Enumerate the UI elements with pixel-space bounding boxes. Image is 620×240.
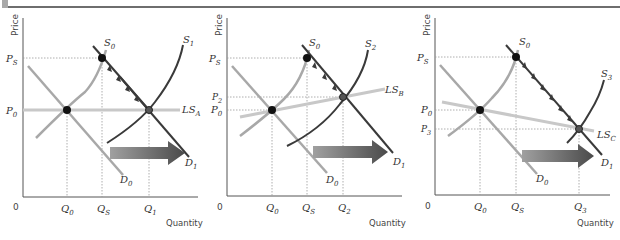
origin-label: 0 — [217, 202, 223, 212]
y-axis-label: Price — [214, 14, 224, 36]
supply-s0-curve — [240, 50, 309, 136]
point-long-run-equilibrium — [146, 107, 153, 114]
origin-label: 0 — [13, 202, 19, 212]
label-s2: S2 — [365, 38, 377, 52]
tick-p0: P0 — [5, 105, 18, 119]
tick-p0: P0 — [420, 104, 433, 118]
demand-d0-line — [232, 66, 327, 173]
tick-ps: PS — [208, 53, 221, 67]
demand-d0-line — [28, 66, 123, 175]
x-axis-label: Quantity — [577, 218, 614, 228]
point-initial-equilibrium — [476, 106, 484, 114]
label-ls-a: LSA — [181, 104, 201, 118]
x-axis-label: Quantity — [166, 218, 203, 228]
label-s0: S0 — [519, 36, 531, 50]
label-d1: D1 — [184, 157, 198, 171]
point-short-run-equilibrium — [303, 54, 311, 62]
supply-s0-curve — [448, 50, 518, 136]
label-s1: S1 — [183, 34, 194, 48]
demand-shift-arrow-icon — [110, 141, 185, 165]
tick-q0: Q0 — [474, 201, 487, 215]
point-initial-equilibrium — [63, 106, 71, 114]
label-d0: D0 — [325, 174, 339, 188]
label-ls-b: LSB — [384, 84, 404, 98]
x-axis-label: Quantity — [369, 218, 406, 228]
figure-canvas: Price Quantity 0 PS — [0, 0, 620, 240]
tick-ps: PS — [5, 53, 18, 67]
tick-q0: Q0 — [61, 203, 74, 217]
demand-d1-line — [302, 45, 393, 153]
y-axis-label: Price — [422, 14, 432, 36]
point-short-run-equilibrium — [98, 54, 106, 62]
demand-d1-line — [506, 45, 602, 155]
transition-path — [312, 62, 337, 91]
supply-s1-curve — [107, 45, 183, 143]
tick-ps: PS — [416, 52, 429, 66]
label-ls-c: LSC — [596, 129, 617, 143]
supply-s0-curve — [36, 50, 106, 138]
chevron-arrow-icons — [107, 65, 139, 102]
tick-q0: Q0 — [266, 202, 279, 216]
tick-q3: Q3 — [574, 201, 587, 215]
tick-qs: QS — [511, 201, 524, 215]
tick-qs: QS — [97, 203, 110, 217]
label-d1: D1 — [392, 156, 406, 170]
supply-s2-curve — [287, 50, 368, 146]
long-run-supply-line — [442, 102, 594, 131]
tick-p0: P0 — [210, 104, 223, 118]
tick-q1: Q1 — [144, 203, 157, 217]
tick-q2: Q2 — [338, 202, 351, 216]
label-s3: S3 — [601, 68, 613, 82]
label-d0: D0 — [119, 174, 133, 188]
label-d0: D0 — [535, 173, 549, 187]
long-run-supply-line — [240, 89, 385, 117]
tick-qs: QS — [302, 202, 315, 216]
point-initial-equilibrium — [268, 106, 276, 114]
point-short-run-equilibrium — [512, 53, 520, 61]
label-d1: D1 — [600, 157, 614, 171]
label-s0: S0 — [104, 37, 116, 51]
chevron-arrow-icons — [312, 62, 337, 91]
point-long-run-equilibrium — [576, 126, 583, 133]
panel-c: Price Quantity 0 PS P0 P3 Q0 — [416, 14, 617, 228]
point-long-run-equilibrium — [340, 94, 347, 101]
origin-label: 0 — [425, 201, 431, 211]
label-s0: S0 — [309, 37, 321, 51]
demand-shift-arrow-icon — [313, 140, 388, 164]
y-axis-label: Price — [10, 14, 20, 36]
tick-p3: P3 — [420, 124, 431, 137]
panel-a: Price Quantity 0 PS — [5, 14, 203, 228]
panel-b: Price Quantity 0 PS P2 P0 Q0 — [208, 14, 406, 228]
demand-shift-arrow-icon — [522, 144, 594, 168]
